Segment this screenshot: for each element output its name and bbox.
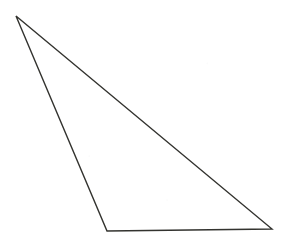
figure-canvas: Outline of a scalene triangle drawn with… [0,0,288,244]
triangle-drawing: Outline of a scalene triangle drawn with… [0,0,288,244]
